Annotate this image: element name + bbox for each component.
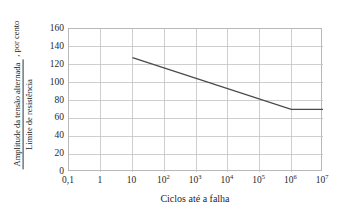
x-axis-tick-label: 10 (127, 175, 137, 186)
x-axis-tick-labels: 0,1110102103104105106107 (0, 175, 340, 189)
chart-figure: Amplitude da tensão alternada Limite de … (0, 0, 340, 212)
x-axis-tick-label: 1 (97, 175, 102, 186)
y-axis-tick-label: 160 (20, 23, 64, 33)
x-axis-tick-label: 107 (316, 175, 329, 186)
x-axis-tick-label: 102 (157, 175, 170, 186)
y-axis-tick-label: 80 (20, 95, 64, 105)
y-axis-tick-label: 120 (20, 59, 64, 69)
x-axis-tick-label: 104 (220, 175, 233, 186)
x-axis-tick-label: 103 (189, 175, 202, 186)
y-axis-tick-label: 20 (20, 148, 64, 158)
plot-svg (69, 29, 323, 172)
y-axis-tick-label: 40 (20, 130, 64, 140)
y-axis-tick-label: 60 (20, 112, 64, 122)
y-axis-tick-label: 140 (20, 41, 64, 51)
y-axis-tick-label: 100 (20, 77, 64, 87)
x-axis-tick-label: 0,1 (62, 175, 74, 186)
plot-area (68, 28, 322, 171)
x-axis-tick-label: 105 (252, 175, 265, 186)
x-axis-label: Ciclos até a falha (68, 193, 322, 204)
x-axis-tick-label: 106 (284, 175, 297, 186)
